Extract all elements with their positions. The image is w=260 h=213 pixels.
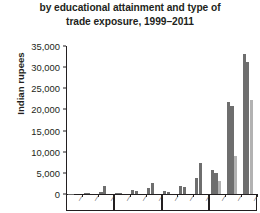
bar-dark-2 [151,183,154,194]
bar-dark-2 [167,192,170,194]
bar-dark-2 [119,193,122,194]
y-axis-label: 5,000 [0,167,60,178]
y-axis-label: 15,000 [0,125,60,136]
chart-title-line-2: trade exposure, 1999–2011 [0,15,260,29]
bar-dark-2 [135,191,138,194]
bar-dark-2 [183,187,186,194]
bar-light [218,181,221,194]
y-axis-label: 30,000 [0,62,60,73]
y-axis-label: 35,000 [0,41,60,52]
chart-figure: by educational attainment and type of tr… [0,0,260,213]
bar-light [234,156,237,194]
chart-title-line-1: by educational attainment and type of [40,2,221,13]
plot-area [66,46,257,194]
bar-light [250,100,253,194]
bar-dark-2 [87,193,90,194]
x-axis-panel-group [162,195,210,211]
x-axis-panel-group [209,195,257,211]
bar-dark-2 [103,186,106,194]
y-axis-label: 10,000 [0,146,60,157]
y-axis-label: 25,000 [0,83,60,94]
x-axis-panel-group [66,195,114,211]
chart-title: by educational attainment and type of tr… [0,1,260,28]
y-axis-label: 20,000 [0,104,60,115]
x-axis-panel-group [114,195,162,211]
bar-dark-2 [199,163,202,194]
y-axis-label: 0 [0,189,60,200]
